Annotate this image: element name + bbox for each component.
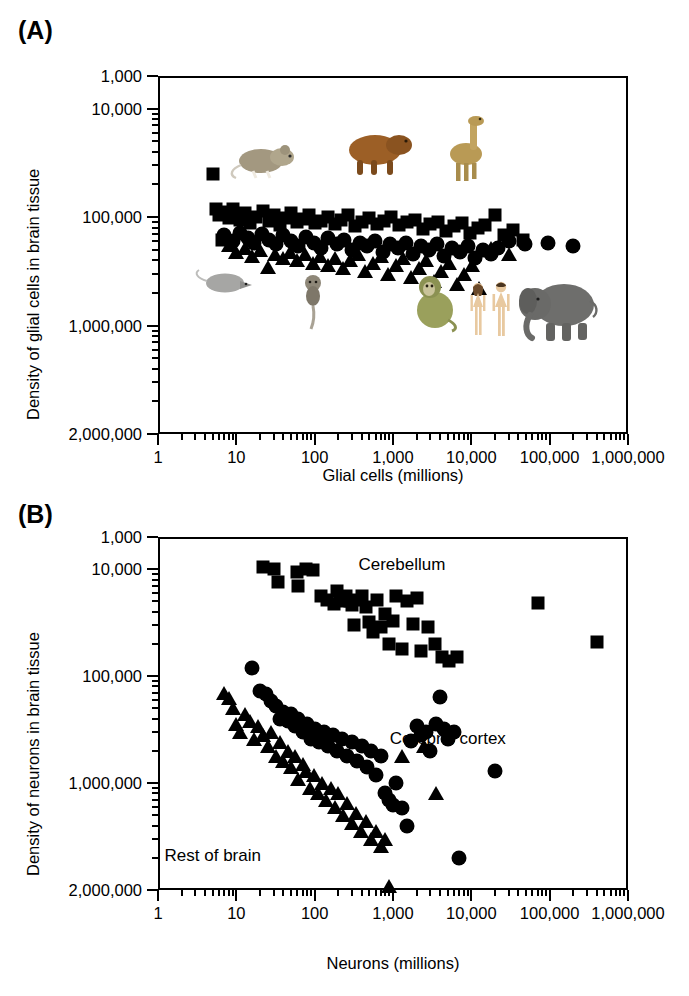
x-tick-minor: [623, 434, 625, 440]
y-tick-minor: [152, 330, 158, 332]
data-point-circle: [369, 767, 384, 782]
y-tick-minor: [152, 227, 158, 229]
y-tick-minor: [152, 692, 158, 694]
panel-b-x-axis-label: Neurons (millions): [158, 954, 628, 973]
panel-a-letter: (A): [18, 16, 53, 45]
x-tick-minor: [282, 434, 284, 440]
x-tick-minor: [351, 890, 353, 896]
x-tick-label: 1,000,000: [591, 904, 664, 923]
mouse-illustration: [227, 141, 299, 181]
elephant-illustration: [516, 277, 602, 343]
x-tick-label: 100,000: [520, 904, 580, 923]
x-tick-minor: [388, 434, 390, 440]
x-tick-minor: [458, 434, 460, 440]
x-tick-minor: [259, 890, 261, 896]
x-tick-minor: [290, 890, 292, 896]
x-tick-minor: [296, 434, 298, 440]
x-tick-minor: [375, 434, 377, 440]
y-tick-minor: [152, 259, 158, 261]
x-tick-major: [392, 434, 394, 445]
y-tick-minor: [152, 718, 158, 720]
x-tick-minor: [194, 890, 196, 896]
data-point-square: [387, 614, 400, 627]
x-tick-minor: [361, 434, 363, 440]
x-tick-minor: [603, 890, 605, 896]
x-tick-major: [157, 434, 159, 445]
y-tick-minor: [152, 750, 158, 752]
y-tick-minor: [152, 814, 158, 816]
data-point-square: [206, 167, 219, 180]
x-tick-label: 10: [227, 448, 245, 467]
y-tick-minor: [152, 221, 158, 223]
capybara-illustration: [337, 126, 415, 178]
y-tick-minor: [152, 707, 158, 709]
x-tick-minor: [306, 434, 308, 440]
x-tick-minor: [586, 434, 588, 440]
data-point-circle: [566, 239, 581, 254]
x-tick-label: 1,000: [372, 448, 413, 467]
y-tick-label: 1,000: [8, 528, 142, 547]
x-tick-minor: [212, 890, 214, 896]
data-point-triangle: [350, 247, 366, 261]
x-tick-minor: [337, 434, 339, 440]
y-tick-minor: [152, 624, 158, 626]
x-tick-minor: [615, 890, 617, 896]
panel-b-letter: (B): [18, 500, 53, 529]
x-tick-minor: [439, 890, 441, 896]
x-tick-minor: [194, 434, 196, 440]
y-tick-minor: [152, 685, 158, 687]
data-point-circle: [373, 748, 388, 763]
y-tick-minor: [152, 585, 158, 587]
panel-a-y-axis-label: Density of glial cells in brain tissue: [24, 169, 43, 420]
x-tick-minor: [273, 890, 275, 896]
x-tick-minor: [517, 434, 519, 440]
x-tick-major: [627, 890, 629, 901]
y-tick-minor: [152, 600, 158, 602]
data-point-triangle: [441, 256, 457, 270]
y-tick-label: 1,000,000: [8, 316, 142, 335]
x-tick-minor: [619, 434, 621, 440]
monkey-illustration: [408, 272, 462, 334]
x-tick-minor: [429, 890, 431, 896]
y-tick-minor: [152, 825, 158, 827]
y-tick-minor: [152, 341, 158, 343]
y-tick-minor: [152, 792, 158, 794]
data-point-circle: [399, 818, 414, 833]
data-point-triangle: [501, 247, 517, 261]
x-tick-label: 10,000: [446, 904, 496, 923]
data-point-circle: [487, 763, 502, 778]
x-tick-minor: [296, 890, 298, 896]
y-tick-minor: [152, 292, 158, 294]
x-tick-minor: [596, 434, 598, 440]
annotation-cerebral-cortex: Cerebral cortex: [390, 729, 506, 749]
y-tick-minor: [152, 611, 158, 613]
y-tick-minor: [152, 573, 158, 575]
x-tick-minor: [525, 890, 527, 896]
data-point-triangle: [395, 251, 411, 265]
data-point-square: [267, 563, 280, 576]
x-tick-label: 100: [301, 448, 329, 467]
y-tick-minor: [152, 680, 158, 682]
x-tick-minor: [508, 434, 510, 440]
x-tick-label: 1,000,000: [591, 448, 664, 467]
y-tick-major: [147, 536, 158, 538]
data-point-circle: [452, 850, 467, 865]
y-tick-major: [147, 75, 158, 77]
y-tick-label: 100,000: [8, 667, 142, 686]
x-tick-minor: [467, 890, 469, 896]
x-tick-minor: [458, 890, 460, 896]
x-tick-major: [627, 434, 629, 445]
data-point-square: [348, 619, 361, 632]
data-point-triangle: [394, 749, 410, 763]
marmoset-illustration: [296, 272, 330, 330]
x-tick-minor: [282, 890, 284, 896]
y-tick-minor: [152, 799, 158, 801]
x-tick-major: [235, 890, 237, 901]
data-point-square: [406, 617, 419, 630]
data-point-triangle: [252, 243, 268, 257]
x-tick-label: 1,000: [372, 904, 413, 923]
data-point-square: [450, 651, 463, 664]
x-tick-minor: [181, 890, 183, 896]
y-tick-minor: [152, 357, 158, 359]
x-tick-minor: [439, 434, 441, 440]
